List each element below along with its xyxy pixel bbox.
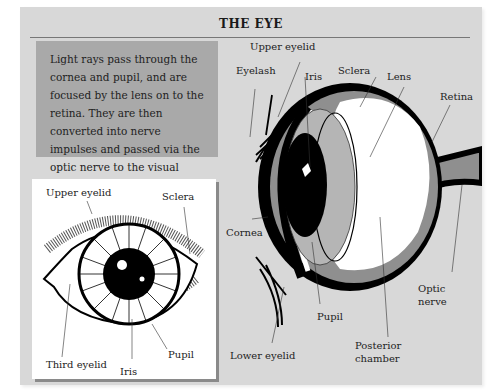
cross-section-illustration: [20, 7, 482, 385]
label-posterior-chamber-1: Posterior: [355, 340, 401, 352]
label-eyelash: Eyelash: [236, 65, 276, 77]
label-upper-eyelid: Upper eyelid: [250, 41, 315, 53]
label-sclera: Sclera: [338, 65, 370, 77]
label-optic-nerve-2: nerve: [418, 296, 447, 308]
label-lens: Lens: [387, 71, 411, 83]
label-posterior-chamber-2: chamber: [355, 353, 400, 365]
label-iris: Iris: [305, 71, 322, 83]
eye-diagram-panel: THE EYE Light rays pass through the corn…: [20, 7, 482, 385]
label-optic-nerve-1: Optic: [418, 283, 445, 295]
label-pupil: Pupil: [317, 311, 343, 323]
label-retina: Retina: [440, 91, 473, 103]
label-cornea: Cornea: [226, 227, 263, 239]
label-lower-eyelid: Lower eyelid: [230, 350, 295, 362]
